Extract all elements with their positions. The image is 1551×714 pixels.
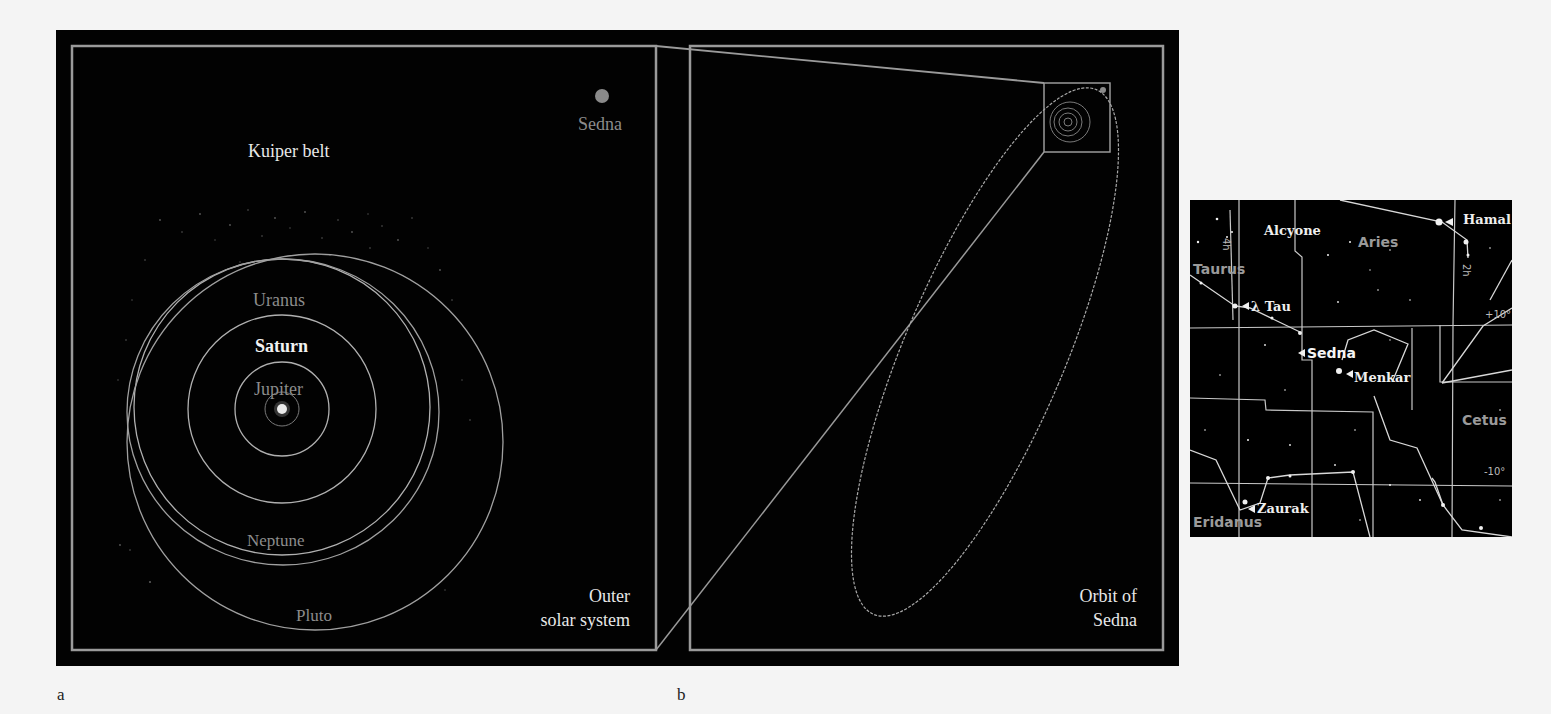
label-hamal: Hamal — [1463, 213, 1511, 226]
sedna-orbit — [800, 58, 1170, 645]
label-uranus: Uranus — [253, 291, 305, 309]
label-neptune: Neptune — [247, 532, 305, 549]
panel-a-frame — [72, 46, 656, 650]
label-taurus: Taurus — [1193, 262, 1245, 276]
label-saturn: Saturn — [255, 337, 308, 355]
label-dec-minus10: -10° — [1484, 467, 1505, 477]
label-dec-plus10: +10° — [1485, 310, 1511, 320]
planet-orbits — [127, 254, 503, 630]
star-chart: Hamal Alcyone Aries Taurus λ Tau Sedna M… — [1190, 200, 1512, 537]
label-ra-2h: 2h — [1461, 264, 1471, 277]
label-menkar: Menkar — [1354, 371, 1410, 384]
panel-a-caption-line1: Outer — [589, 587, 630, 605]
label-eridanus: Eridanus — [1193, 515, 1262, 529]
label-aries: Aries — [1358, 235, 1398, 249]
mini-orbits — [1050, 102, 1090, 142]
panel-b-caption-line2: Sedna — [1093, 611, 1137, 629]
panel-letter-a: a — [57, 685, 65, 705]
label-sedna: Sedna — [578, 115, 622, 133]
panel-a-caption-line2: solar system — [541, 611, 631, 629]
label-zaurak: Zaurak — [1257, 502, 1309, 515]
zoom-connector-bottom — [656, 152, 1044, 650]
label-pluto: Pluto — [296, 607, 332, 624]
panel-letter-b: b — [677, 685, 686, 705]
panel-b-caption-line1: Orbit of — [1080, 587, 1138, 605]
sedna-dot-icon — [595, 89, 609, 103]
label-sedna-star-chart: Sedna — [1307, 346, 1356, 360]
label-ra-4h: 4h — [1221, 238, 1231, 251]
zoom-connector-top — [656, 46, 1044, 83]
star-pointer-arrows — [1242, 218, 1453, 513]
label-cetus: Cetus — [1462, 413, 1507, 427]
inset-box — [1044, 83, 1110, 152]
label-jupiter: Jupiter — [254, 380, 303, 398]
label-alcyone: Alcyone — [1264, 224, 1321, 237]
sun-glow-icon — [274, 401, 290, 417]
panel-b-frame — [690, 46, 1163, 650]
label-kuiper-belt: Kuiper belt — [248, 142, 329, 160]
label-lambda-tau: λ Tau — [1251, 300, 1291, 313]
constellation-lines — [1190, 200, 1512, 537]
constellation-boundaries — [1190, 200, 1512, 537]
